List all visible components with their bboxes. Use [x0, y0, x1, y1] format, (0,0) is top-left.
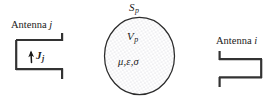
antenna-i-caption: Antenna i: [216, 36, 257, 47]
antenna-i-caption-word: Antenna: [216, 35, 252, 46]
volume-label: Vp: [127, 31, 138, 44]
volume-symbol: V: [127, 30, 134, 42]
current-density-label: Jj: [36, 50, 44, 63]
antenna-j-caption-word: Antenna: [11, 19, 47, 30]
surface-symbol: S: [129, 1, 135, 13]
surface-label: Sp: [129, 2, 139, 15]
volume-index: p: [134, 35, 138, 44]
antenna-j-caption-index: j: [49, 19, 52, 30]
current-density-symbol: J: [36, 49, 42, 61]
scattering-region-ellipse: [105, 18, 175, 95]
antenna-scattering-figure: Antenna j Jj Sp Vp μ,ε,σ Antenna i: [0, 0, 280, 108]
current-density-index: j: [42, 54, 45, 63]
antenna-j-caption: Antenna j: [11, 20, 52, 31]
antenna-i-shape: [219, 51, 262, 87]
current-density-arrow-icon: [28, 51, 34, 63]
material-properties-label: μ,ε,σ: [118, 57, 139, 68]
surface-index: p: [135, 6, 139, 15]
antenna-i-caption-index: i: [254, 35, 257, 46]
